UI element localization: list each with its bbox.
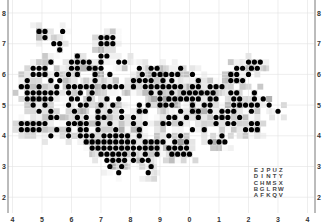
heat-cell [225,127,231,133]
heat-cell [125,121,131,127]
data-dot [178,84,183,89]
data-dot [113,84,118,89]
data-dot [93,72,98,77]
data-dot [169,90,174,95]
data-dot [225,109,230,114]
data-dot [137,103,142,108]
heat-cell [92,157,98,163]
data-dot [25,96,30,101]
heat-cell [154,78,160,84]
heat-cell [80,53,86,59]
data-dot [246,72,251,77]
y-tick-label-left: 2 [2,194,6,201]
heat-cell [30,84,36,90]
data-dot [107,164,112,169]
data-dot [119,133,124,138]
data-dot [222,139,227,144]
data-dot [249,121,254,126]
heat-cell [101,78,107,84]
data-dot [178,121,183,126]
heat-cell [131,90,137,96]
heat-cell [151,170,157,176]
heat-cell [136,121,142,127]
data-dot [243,103,248,108]
data-dot [122,158,127,163]
grid-letter: U [272,167,276,173]
data-dot [69,60,74,65]
data-dot [190,109,195,114]
data-dot [219,115,224,120]
data-dot [75,60,80,65]
data-dot [163,103,168,108]
data-dot [119,145,124,150]
data-dot [202,103,207,108]
data-dot [104,53,109,58]
y-tick-label-right: 5 [317,102,321,109]
heat-cell [142,114,148,120]
heat-cell [172,59,178,65]
heat-cell [42,139,48,145]
data-dot [252,60,257,65]
data-dot [131,84,136,89]
data-dot [249,103,254,108]
data-dot [48,60,53,65]
heat-cell [92,59,98,65]
data-dot [107,133,112,138]
heat-cell [154,121,160,127]
data-dot [157,103,162,108]
heat-cell [234,59,240,65]
data-dot [31,66,36,71]
data-dot [48,90,53,95]
data-dot [98,66,103,71]
data-dot [154,152,159,157]
heat-cell [181,157,187,163]
grid-letter: A [254,192,259,198]
data-dot [75,53,80,58]
heat-cell [219,121,225,127]
data-dot [36,121,41,126]
data-dot [184,145,189,150]
data-dot [181,90,186,95]
data-dot [98,35,103,40]
data-dot [219,133,224,138]
data-dot [140,72,145,77]
heat-cell [83,145,89,151]
data-dot [116,158,121,163]
heat-cell [89,127,95,133]
data-dot [113,145,118,150]
data-dot [119,115,124,120]
data-dot [31,90,36,95]
heat-cell [145,176,151,182]
data-dot [146,103,151,108]
heat-cell [101,108,107,114]
data-dot [119,164,124,169]
data-dot [95,145,100,150]
data-dot [54,84,59,89]
data-dot [225,115,230,120]
grid-letter: W [278,186,284,192]
data-dot [101,84,106,89]
data-dot [178,109,183,114]
data-dot [54,90,59,95]
data-dot [75,72,80,77]
data-dot [131,121,136,126]
heat-cell [207,78,213,84]
data-dot [240,78,245,83]
data-dot [84,133,89,138]
heat-cell [89,108,95,114]
data-dot [240,66,245,71]
heat-cell [201,114,207,120]
x-tick-label: 5 [40,216,44,223]
heat-cell [30,78,36,84]
grid-letter: M [266,180,271,186]
data-dot [66,90,71,95]
data-dot [172,145,177,150]
heat-cell [207,121,213,127]
heat-cell [263,59,269,65]
data-dot [208,103,213,108]
data-dot [42,121,47,126]
heat-cell [66,78,72,84]
data-dot [255,103,260,108]
data-dot [98,152,103,157]
heat-cell [51,35,57,41]
